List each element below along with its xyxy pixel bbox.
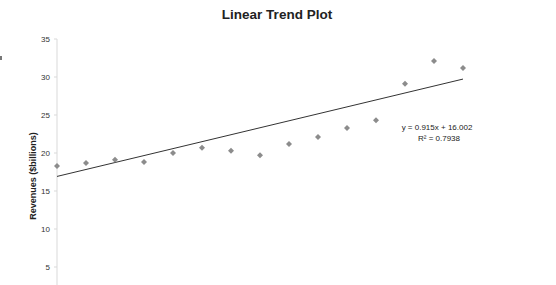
y-tick-label: 25	[41, 111, 50, 120]
data-point-marker	[199, 145, 205, 151]
data-point-marker	[315, 134, 321, 140]
data-point-marker	[344, 125, 350, 131]
data-point-marker	[286, 141, 292, 147]
y-axis-title: Revenues ($billions)	[28, 132, 38, 220]
y-ticks: 5101520253035	[41, 35, 57, 272]
y-axis: 5101520253035	[41, 35, 57, 285]
data-point-marker	[257, 152, 263, 158]
y-tick-label: 30	[41, 73, 50, 82]
y-tick-label: 35	[41, 35, 50, 44]
data-point-marker	[83, 160, 89, 166]
chart-title: Linear Trend Plot	[222, 7, 333, 22]
trendline-r-squared: R² = 0.7938	[418, 134, 461, 143]
data-point-marker	[431, 58, 437, 64]
data-point-marker	[170, 150, 176, 156]
data-point-marker	[228, 148, 234, 154]
y-tick-label: 20	[41, 149, 50, 158]
data-point-marker	[373, 117, 379, 123]
y-tick-label: 10	[41, 225, 50, 234]
data-point-marker	[141, 159, 147, 165]
data-points	[54, 58, 466, 169]
data-point-marker	[402, 81, 408, 87]
edge-artifact	[0, 56, 2, 60]
linear-trend-chart: Linear Trend Plot 5101520253035 Revenues…	[0, 0, 556, 285]
data-point-marker	[460, 65, 466, 71]
y-tick-label: 15	[41, 187, 50, 196]
trendline-equation: y = 0.915x + 16.002	[402, 123, 473, 132]
data-point-marker	[54, 163, 60, 169]
y-tick-label: 5	[46, 263, 51, 272]
